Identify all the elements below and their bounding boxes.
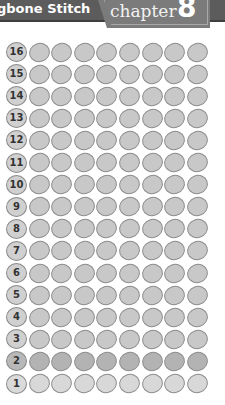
bead: [116, 305, 142, 330]
bead: [71, 40, 97, 65]
bead: [184, 194, 210, 219]
bead: [184, 128, 210, 153]
bead: [49, 40, 75, 65]
bead: [26, 62, 52, 87]
bead: [184, 106, 210, 131]
bead: [184, 40, 210, 65]
bead: [26, 194, 52, 219]
bead: [139, 327, 165, 352]
row-label: 15: [6, 64, 27, 84]
row-label: 13: [6, 108, 27, 128]
bead: [26, 150, 52, 175]
row-label: 4: [6, 307, 27, 327]
bead: [116, 217, 142, 242]
bead: [94, 172, 120, 197]
row-label: 3: [6, 329, 27, 349]
bead: [71, 194, 97, 219]
bead: [71, 283, 97, 308]
bead: [116, 239, 142, 264]
bead: [26, 261, 52, 286]
bead: [162, 305, 188, 330]
section-title: gbone Stitch: [0, 1, 90, 16]
bead: [26, 305, 52, 330]
bead: [116, 128, 142, 153]
bead: [139, 217, 165, 242]
bead: [139, 62, 165, 87]
bead: [49, 283, 75, 308]
bead: [139, 150, 165, 175]
row-label: 12: [6, 130, 27, 150]
bead: [49, 84, 75, 109]
row-label: 6: [6, 263, 27, 283]
bead: [162, 150, 188, 175]
bead: [71, 305, 97, 330]
bead: [116, 283, 142, 308]
bead: [71, 239, 97, 264]
bead: [49, 62, 75, 87]
bead: [94, 371, 120, 396]
bead: [184, 172, 210, 197]
bead: [94, 283, 120, 308]
bead: [162, 349, 188, 374]
bead: [116, 40, 142, 65]
bead: [49, 305, 75, 330]
bead: [49, 128, 75, 153]
bead: [26, 172, 52, 197]
bead: [184, 62, 210, 87]
bead: [49, 327, 75, 352]
bead: [162, 62, 188, 87]
bead: [94, 84, 120, 109]
chapter-number: 8: [177, 0, 196, 23]
bead: [116, 106, 142, 131]
bead: [49, 194, 75, 219]
bead: [116, 62, 142, 87]
bead: [26, 40, 52, 65]
bead: [184, 283, 210, 308]
bead: [71, 172, 97, 197]
bead: [162, 106, 188, 131]
bead: [26, 283, 52, 308]
bead: [26, 84, 52, 109]
bead: [184, 150, 210, 175]
bead: [162, 128, 188, 153]
bead: [116, 194, 142, 219]
bead: [139, 371, 165, 396]
bead: [162, 327, 188, 352]
bead: [26, 217, 52, 242]
bead: [71, 62, 97, 87]
bead: [184, 305, 210, 330]
bead: [162, 283, 188, 308]
bead: [139, 172, 165, 197]
bead: [49, 172, 75, 197]
bead: [49, 217, 75, 242]
bead: [49, 239, 75, 264]
bead: [71, 84, 97, 109]
bead: [71, 106, 97, 131]
bead: [49, 150, 75, 175]
bead: [116, 371, 142, 396]
bead: [184, 349, 210, 374]
bead: [26, 371, 52, 396]
bead: [139, 261, 165, 286]
bead: [116, 261, 142, 286]
bead: [94, 305, 120, 330]
bead: [71, 128, 97, 153]
bead: [94, 261, 120, 286]
bead: [116, 349, 142, 374]
bead: [71, 217, 97, 242]
bead: [26, 349, 52, 374]
bead: [162, 371, 188, 396]
bead: [94, 40, 120, 65]
chapter-label: chapter: [110, 0, 177, 22]
bead: [139, 128, 165, 153]
bead: [49, 349, 75, 374]
bead: [26, 106, 52, 131]
bead: [184, 84, 210, 109]
bead: [184, 217, 210, 242]
row-label: 16: [6, 42, 27, 62]
row-label: 11: [6, 153, 27, 173]
bead: [94, 150, 120, 175]
bead: [162, 261, 188, 286]
bead: [94, 62, 120, 87]
bead: [49, 106, 75, 131]
